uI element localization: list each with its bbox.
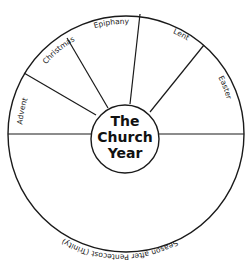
center-title-line-2: Church — [97, 129, 152, 145]
center-title-line-1: The — [110, 113, 139, 129]
church-year-wheel: The Church Year Advent Christmas Epiphan… — [0, 0, 249, 261]
center-title-line-3: Year — [107, 145, 143, 161]
